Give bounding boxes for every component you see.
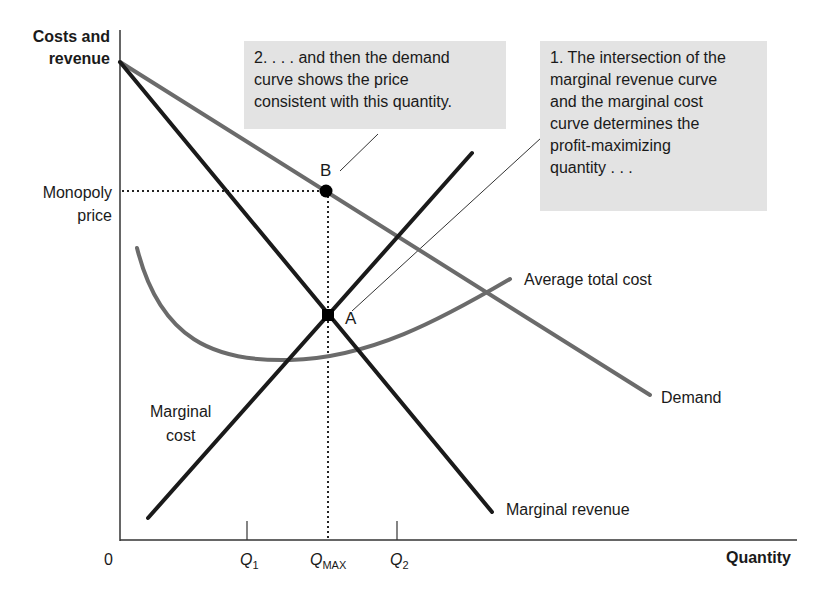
callout-1-line3: and the marginal cost xyxy=(550,91,757,113)
average-total-cost-label: Average total cost xyxy=(524,270,652,289)
point-b-marker xyxy=(320,185,333,198)
origin-label: 0 xyxy=(104,550,113,569)
point-b-label: B xyxy=(320,161,331,180)
callout-2-line3: consistent with this quantity. xyxy=(254,91,496,113)
y-axis-title: Costs and revenue xyxy=(0,26,110,70)
callout-1-line4: curve determines the xyxy=(550,113,757,135)
q1-subscript: 1 xyxy=(252,559,258,571)
qmax-subscript: MAX xyxy=(322,559,346,571)
callout-2-line2: curve shows the price xyxy=(254,69,496,91)
marginal-cost-label-line2: cost xyxy=(150,424,211,448)
monopoly-price-line2: price xyxy=(0,204,112,227)
qmax-letter: Q xyxy=(310,551,322,568)
callout-1-line6: quantity . . . xyxy=(550,157,757,179)
marginal-cost-curve xyxy=(148,153,472,518)
marginal-cost-label: Marginal cost xyxy=(150,400,211,448)
marginal-revenue-label: Marginal revenue xyxy=(506,500,630,519)
q2-subscript: 2 xyxy=(402,559,408,571)
demand-label: Demand xyxy=(661,388,721,407)
callout-2-line1: 2. . . . and then the demand xyxy=(254,47,496,69)
q2-letter: Q xyxy=(390,551,402,568)
marginal-cost-label-line1: Marginal xyxy=(150,400,211,424)
monopoly-price-label: Monopoly price xyxy=(0,181,112,227)
qmax-label: QMAX xyxy=(310,550,346,575)
q1-letter: Q xyxy=(240,551,252,568)
q2-label: Q2 xyxy=(390,550,409,575)
y-axis-title-line1: Costs and xyxy=(0,26,110,48)
q1-label: Q1 xyxy=(240,550,259,575)
callout-1-line1: 1. The intersection of the xyxy=(550,47,757,69)
callout-2-leader xyxy=(340,134,378,171)
point-a-marker xyxy=(322,309,334,321)
callout-2: 2. . . . and then the demand curve shows… xyxy=(244,41,506,129)
point-a-label: A xyxy=(345,309,356,328)
callout-1-line2: marginal revenue curve xyxy=(550,69,757,91)
monopoly-price-line1: Monopoly xyxy=(0,181,112,204)
y-axis-title-line2: revenue xyxy=(0,48,110,70)
callout-1-line5: profit-maximizing xyxy=(550,135,757,157)
callout-1: 1. The intersection of the marginal reve… xyxy=(540,41,767,211)
average-total-cost-curve xyxy=(137,248,510,360)
x-axis-title: Quantity xyxy=(726,548,791,567)
